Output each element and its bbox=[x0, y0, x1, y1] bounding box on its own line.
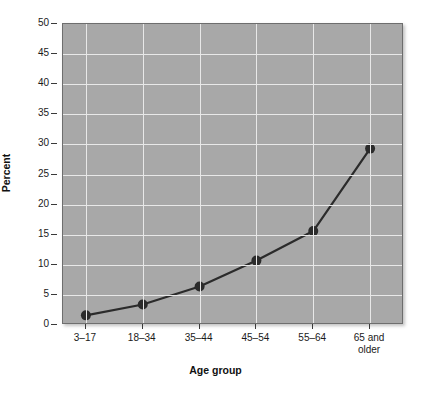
x-tick-mark bbox=[369, 324, 370, 329]
gridline-horizontal bbox=[63, 175, 402, 176]
gridline-horizontal bbox=[63, 114, 402, 115]
y-tick-mark bbox=[51, 204, 57, 205]
y-tick-label: 15 bbox=[38, 229, 49, 239]
gridline-vertical bbox=[370, 24, 371, 323]
x-tick-label: 45–54 bbox=[242, 332, 270, 344]
x-tick-label: 35–44 bbox=[185, 332, 213, 344]
y-tick-mark bbox=[51, 264, 57, 265]
y-tick-mark bbox=[51, 83, 57, 84]
y-tick-label: 25 bbox=[38, 169, 49, 179]
y-tick-mark bbox=[51, 113, 57, 114]
gridline-horizontal bbox=[63, 205, 402, 206]
gridline-horizontal bbox=[63, 235, 402, 236]
y-tick-mark bbox=[51, 23, 57, 24]
x-tick-label: 65 andolder bbox=[354, 332, 385, 356]
y-tick-mark bbox=[51, 234, 57, 235]
gridline-vertical bbox=[256, 24, 257, 323]
gridline-vertical bbox=[200, 24, 201, 323]
x-tick-mark bbox=[142, 324, 143, 329]
gridline-horizontal bbox=[63, 265, 402, 266]
x-tick-label: 3–17 bbox=[74, 332, 96, 344]
gridline-horizontal bbox=[63, 295, 402, 296]
gridline-vertical bbox=[143, 24, 144, 323]
x-axis-title: Age group bbox=[0, 364, 431, 376]
y-tick-label: 0 bbox=[43, 319, 49, 329]
y-tick-mark bbox=[51, 324, 57, 325]
y-tick-mark bbox=[51, 174, 57, 175]
x-tick-mark bbox=[312, 324, 313, 329]
y-tick-label: 30 bbox=[38, 138, 49, 148]
y-tick-mark bbox=[51, 143, 57, 144]
y-axis-title: Percent bbox=[0, 154, 12, 193]
y-axis: Percent 05101520253035404550 bbox=[0, 23, 62, 324]
y-tick-label: 40 bbox=[38, 78, 49, 88]
x-tick-label: 18–34 bbox=[128, 332, 156, 344]
plot-area bbox=[62, 23, 403, 324]
y-tick-label: 35 bbox=[38, 108, 49, 118]
y-tick-label: 5 bbox=[43, 289, 49, 299]
gridline-vertical bbox=[86, 24, 87, 323]
x-tick-mark bbox=[85, 324, 86, 329]
x-tick-label: 55–64 bbox=[298, 332, 326, 344]
gridline-horizontal bbox=[63, 54, 402, 55]
gridline-horizontal bbox=[63, 144, 402, 145]
y-tick-label: 20 bbox=[38, 199, 49, 209]
x-tick-mark bbox=[199, 324, 200, 329]
y-tick-label: 10 bbox=[38, 259, 49, 269]
gridline-horizontal bbox=[63, 84, 402, 85]
chart-figure: Percent 05101520253035404550 3–1718–3435… bbox=[0, 0, 431, 393]
x-axis: 3–1718–3435–4445–5455–6465 andolder bbox=[62, 324, 403, 364]
gridline-vertical bbox=[313, 24, 314, 323]
y-tick-label: 50 bbox=[38, 18, 49, 28]
y-tick-label: 45 bbox=[38, 48, 49, 58]
y-tick-mark bbox=[51, 53, 57, 54]
y-tick-mark bbox=[51, 294, 57, 295]
x-tick-mark bbox=[255, 324, 256, 329]
